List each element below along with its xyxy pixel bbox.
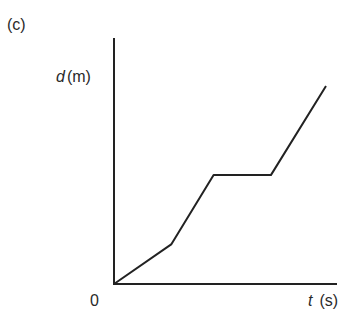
chart-plot: [0, 0, 351, 322]
distance-time-line: [114, 86, 326, 284]
